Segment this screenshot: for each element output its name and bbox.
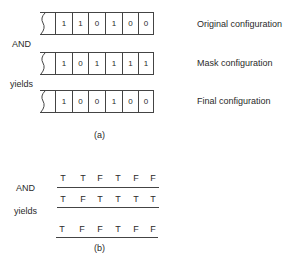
bit-cell: 1 bbox=[105, 13, 122, 34]
truth-value: T bbox=[77, 173, 89, 183]
truth-value: F bbox=[77, 194, 89, 204]
bit-cell: 0 bbox=[122, 91, 138, 112]
truth-value: T bbox=[147, 194, 159, 204]
truth-value: T bbox=[57, 173, 69, 183]
truth-value: T bbox=[57, 194, 69, 204]
divider-line bbox=[57, 207, 159, 208]
bit-cell: 0 bbox=[138, 91, 154, 112]
register-mask: 1 0 1 1 1 1 bbox=[40, 52, 154, 75]
mask-configuration-label: Mask configuration bbox=[197, 58, 273, 68]
final-configuration-label: Final configuration bbox=[197, 96, 271, 106]
truth-value: F bbox=[130, 173, 142, 183]
truth-value: T bbox=[112, 224, 124, 234]
bit-cell: 0 bbox=[122, 13, 138, 34]
and-operator-label: AND bbox=[12, 39, 31, 49]
truth-value: T bbox=[112, 194, 124, 204]
register-final: 1 0 0 1 0 0 bbox=[40, 90, 154, 113]
bit-cell: 0 bbox=[72, 91, 88, 112]
truth-value: F bbox=[147, 224, 159, 234]
truth-value: T bbox=[94, 194, 106, 204]
bit-cell: 1 bbox=[138, 53, 154, 74]
yields-label: yields bbox=[14, 206, 37, 216]
original-configuration-label: Original configuration bbox=[197, 19, 282, 29]
bit-cell: 1 bbox=[55, 91, 72, 112]
truth-value: T bbox=[130, 194, 142, 204]
truth-value: F bbox=[147, 173, 159, 183]
bit-cell: 1 bbox=[122, 53, 138, 74]
divider-line bbox=[57, 187, 159, 188]
bit-cell: 1 bbox=[55, 13, 72, 34]
yields-label: yields bbox=[10, 79, 33, 89]
truth-value: F bbox=[94, 173, 106, 183]
bracket-break-icon bbox=[39, 90, 47, 113]
bit-cell: 1 bbox=[72, 13, 88, 34]
truth-value: F bbox=[94, 224, 106, 234]
bracket-break-icon bbox=[39, 12, 47, 35]
bit-cell: 1 bbox=[105, 91, 122, 112]
bit-cell: 0 bbox=[88, 13, 105, 34]
truth-value: T bbox=[112, 173, 124, 183]
truth-value: F bbox=[130, 224, 142, 234]
and-operator-label: AND bbox=[16, 183, 35, 193]
caption-a: (a) bbox=[94, 130, 105, 140]
register-original: 1 1 0 1 0 0 bbox=[40, 12, 154, 35]
caption-b: (b) bbox=[94, 243, 105, 253]
truth-value: T bbox=[56, 224, 68, 234]
bit-cell: 0 bbox=[72, 53, 88, 74]
bit-cell: 1 bbox=[55, 53, 72, 74]
bit-cell: 1 bbox=[88, 53, 105, 74]
bracket-break-icon bbox=[39, 52, 47, 75]
divider-line bbox=[56, 237, 158, 238]
bit-cell: 0 bbox=[138, 13, 154, 34]
bit-cell: 1 bbox=[105, 53, 122, 74]
bit-cell: 0 bbox=[88, 91, 105, 112]
truth-value: F bbox=[76, 224, 88, 234]
